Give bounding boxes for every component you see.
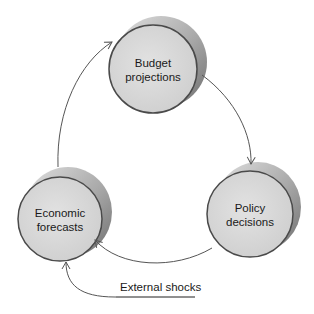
arrow-policy-to-economic [95, 240, 212, 263]
node-label-policy: Policy decisions [205, 201, 295, 229]
node-label-line: decisions [205, 215, 295, 229]
node-label-budget: Budget projections [108, 56, 198, 84]
arrow-budget-to-policy [202, 75, 251, 164]
node-label-line: Budget [108, 56, 198, 70]
arrow-economic-to-budget [58, 42, 112, 167]
node-label-line: projections [108, 70, 198, 84]
node-label-economic: Economic forecasts [15, 206, 105, 234]
node-label-line: Policy [205, 201, 295, 215]
diagram-canvas [0, 0, 314, 314]
node-label-line: forecasts [15, 220, 105, 234]
external-shocks-label: External shocks [120, 281, 201, 293]
node-label-line: Economic [15, 206, 105, 220]
